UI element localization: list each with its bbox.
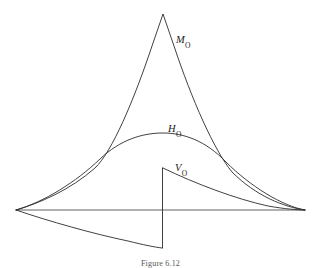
curve-label-m0-subscript: O bbox=[185, 41, 190, 50]
curve-label-v0: VO bbox=[175, 163, 187, 176]
curve-v0-left-branch bbox=[16, 210, 162, 248]
curve-label-m0: MO bbox=[176, 35, 190, 48]
figure-caption: Figure 6.12 bbox=[0, 259, 321, 268]
curve-label-h0-symbol: H bbox=[168, 123, 176, 134]
curve-label-v0-subscript: O bbox=[182, 169, 187, 178]
curve-label-m0-symbol: M bbox=[176, 34, 185, 45]
curve-label-v0-symbol: V bbox=[175, 162, 181, 173]
curve-m0 bbox=[16, 14, 305, 210]
influence-line-plot bbox=[0, 0, 321, 268]
curve-label-h0-subscript: O bbox=[176, 130, 181, 139]
curve-label-h0: HO bbox=[168, 124, 181, 137]
figure-container: MO HO VO Figure 6.12 bbox=[0, 0, 321, 268]
curve-h0 bbox=[16, 133, 305, 210]
